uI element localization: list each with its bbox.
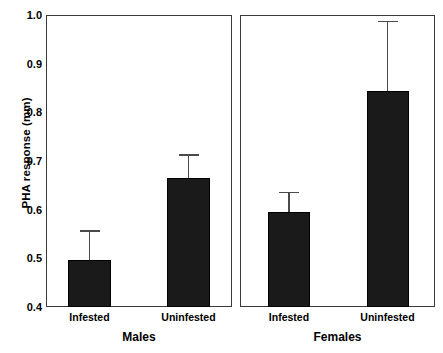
y-axis-label: PHA response (mm) bbox=[20, 63, 32, 243]
y-tick-label: 0.6 bbox=[12, 204, 42, 216]
error-bar-stem bbox=[188, 154, 189, 178]
y-tick-label: 1.0 bbox=[12, 9, 42, 21]
group-label-females: Females bbox=[313, 330, 361, 344]
category-label: Infested bbox=[269, 311, 309, 323]
category-label: Uninfested bbox=[161, 311, 215, 323]
error-bar-cap bbox=[279, 192, 299, 194]
error-bar-stem bbox=[387, 21, 388, 92]
y-tick-label: 0.4 bbox=[12, 301, 42, 313]
bar bbox=[167, 178, 210, 307]
bar bbox=[68, 260, 111, 307]
error-bar-cap bbox=[80, 230, 100, 232]
error-bar-cap bbox=[179, 154, 199, 156]
chart-figure: PHA response (mm) 0.40.50.60.70.80.91.0 … bbox=[0, 0, 443, 353]
y-tick-label: 0.9 bbox=[12, 58, 42, 70]
y-tick-label: 0.5 bbox=[12, 252, 42, 264]
bar bbox=[268, 212, 310, 307]
error-bar-stem bbox=[89, 230, 90, 260]
y-tick-label: 0.8 bbox=[12, 106, 42, 118]
bar bbox=[367, 91, 409, 307]
group-label-males: Males bbox=[122, 330, 155, 344]
y-tick-label: 0.7 bbox=[12, 155, 42, 167]
category-label: Infested bbox=[69, 311, 109, 323]
category-label: Uninfested bbox=[360, 311, 414, 323]
error-bar-stem bbox=[288, 192, 289, 212]
error-bar-cap bbox=[378, 21, 398, 23]
